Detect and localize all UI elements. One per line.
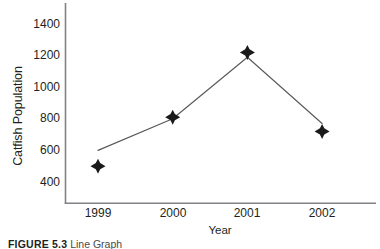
figure-container: 1400 1200 1000 800 600 400 Catfish Popul… <box>0 0 380 249</box>
x-tick-label: 2000 <box>146 206 200 220</box>
x-tick-label: 1999 <box>71 206 125 220</box>
figure-caption-label: FIGURE 5.3 <box>8 238 67 249</box>
data-point-marker <box>315 124 330 139</box>
chart-axes <box>65 3 376 204</box>
figure-caption: FIGURE 5.3Line Graph <box>8 238 122 249</box>
figure-caption-text: Line Graph <box>70 238 122 249</box>
x-axis-title: Year <box>65 224 375 237</box>
y-axis-title: Catfish Population <box>9 26 27 206</box>
data-line <box>98 57 322 150</box>
data-markers <box>91 45 330 174</box>
x-tick-label: 2001 <box>220 206 274 220</box>
data-point-marker <box>240 45 255 60</box>
x-tick-label: 2002 <box>295 206 349 220</box>
data-point-marker <box>91 159 106 174</box>
data-point-marker <box>165 110 180 125</box>
